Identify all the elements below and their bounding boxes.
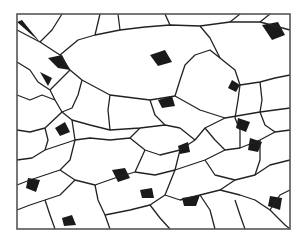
grain-boundary-figure [0, 0, 306, 240]
